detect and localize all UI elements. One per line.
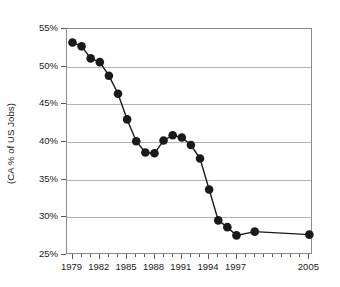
x-tick-1992	[190, 254, 191, 257]
x-tick-1980	[81, 254, 82, 257]
x-tick-2005	[308, 254, 309, 259]
x-tick-label-1991: 1991	[170, 261, 191, 272]
x-tick-1986	[135, 254, 136, 257]
x-tick-2003	[290, 254, 291, 257]
x-tick-1991	[181, 254, 182, 259]
x-tick-1983	[108, 254, 109, 257]
y-tick-label-25: 25%	[22, 249, 58, 259]
x-tick-label-1997: 1997	[225, 261, 246, 272]
plot-area	[66, 28, 312, 254]
data-point-1986	[132, 137, 141, 146]
x-tick-1979	[72, 254, 73, 259]
x-tick-2004	[299, 254, 300, 257]
y-tick-label-50: 50%	[22, 61, 58, 71]
x-tick-2002	[281, 254, 282, 257]
series-markers	[68, 38, 313, 239]
x-tick-2000	[263, 254, 264, 257]
x-tick-1987	[144, 254, 145, 257]
data-point-1990	[168, 131, 177, 140]
x-tick-1984	[117, 254, 118, 257]
x-tick-label-1985: 1985	[116, 261, 137, 272]
x-tick-1994	[208, 254, 209, 259]
data-point-1983	[105, 71, 114, 80]
data-point-1984	[114, 89, 123, 98]
x-tick-1982	[99, 254, 100, 259]
x-tick-1999	[254, 254, 255, 257]
data-point-2005	[305, 230, 314, 239]
x-tick-label-2005: 2005	[298, 261, 319, 272]
x-tick-1997	[236, 254, 237, 259]
x-tick-1988	[154, 254, 155, 259]
data-point-1980	[77, 42, 86, 51]
data-point-1991	[178, 133, 187, 142]
y-tick-25	[61, 254, 66, 255]
x-tick-1995	[217, 254, 218, 257]
y-tick-label-55: 55%	[22, 23, 58, 33]
chart-container: (CA % of US Jobs) 55%50%45%40%35%30%25% …	[0, 0, 340, 287]
data-point-1993	[196, 154, 205, 163]
data-point-1999	[250, 227, 259, 236]
data-point-1992	[187, 141, 196, 150]
x-tick-label-1988: 1988	[143, 261, 164, 272]
x-tick-1993	[199, 254, 200, 257]
x-tick-1990	[172, 254, 173, 257]
y-tick-label-40: 40%	[22, 136, 58, 146]
y-tick-label-45: 45%	[22, 98, 58, 108]
data-point-1987	[141, 148, 150, 157]
data-point-1996	[223, 223, 232, 232]
data-point-1995	[214, 216, 223, 225]
data-point-1982	[96, 58, 105, 67]
x-tick-1985	[126, 254, 127, 259]
x-tick-1996	[226, 254, 227, 257]
x-tick-label-1982: 1982	[88, 261, 109, 272]
data-point-1994	[205, 185, 214, 194]
data-point-1979	[68, 38, 77, 47]
y-axis-title: (CA % of US Jobs)	[0, 0, 20, 287]
data-point-1997	[232, 231, 241, 240]
data-point-1985	[123, 115, 132, 124]
x-tick-1989	[163, 254, 164, 257]
data-point-1989	[159, 136, 168, 145]
y-tick-label-35: 35%	[22, 174, 58, 184]
series-path	[72, 43, 309, 236]
y-tick-label-30: 30%	[22, 211, 58, 221]
x-tick-1998	[245, 254, 246, 257]
x-tick-label-1994: 1994	[198, 261, 219, 272]
data-point-1981	[86, 54, 95, 63]
data-series-line	[67, 29, 313, 255]
data-point-1988	[150, 149, 159, 158]
x-tick-label-1979: 1979	[61, 261, 82, 272]
x-tick-1981	[90, 254, 91, 257]
x-tick-2001	[272, 254, 273, 257]
